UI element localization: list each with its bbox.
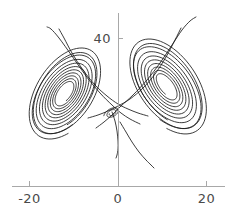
axes-group: -20020 40: [12, 13, 225, 206]
y-tick-label: 40: [93, 31, 111, 46]
x-tick-label: 20: [198, 191, 216, 206]
y-tick-group: 40: [93, 31, 123, 46]
x-tick-label: 0: [114, 191, 123, 206]
trajectory-left-wing-spiral: [32, 55, 95, 134]
trajectory-tail-descending: [112, 112, 118, 158]
x-tick-group: -20020: [18, 181, 215, 206]
lorenz-attractor-figure: -20020 40: [0, 0, 234, 220]
plot-canvas: -20020 40: [0, 0, 234, 220]
trajectory-crossover-left-to-right-upper: [96, 17, 196, 128]
x-tick-label: -20: [18, 191, 41, 206]
trajectory-tail-lower-right: [120, 122, 154, 168]
